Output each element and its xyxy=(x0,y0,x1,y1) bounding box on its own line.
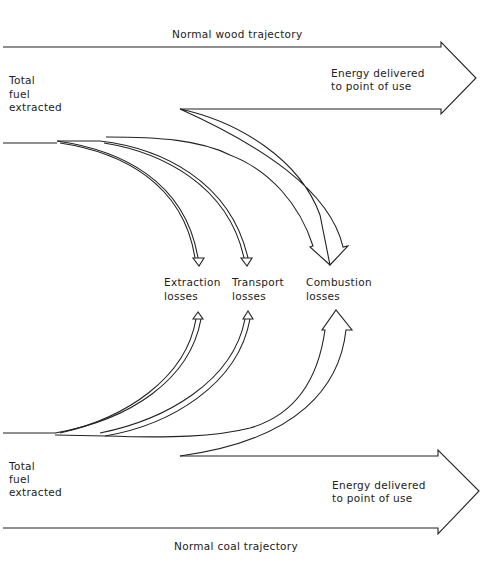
wood-output-label: Energy delivered to point of use xyxy=(331,67,428,92)
wood-combustion-loss-band xyxy=(180,109,348,265)
energy-trajectory-diagram: Normal wood trajectory Total fuel extrac… xyxy=(0,0,502,575)
combustion-losses-label: Combustion losses xyxy=(306,276,376,302)
coal-transport-arrowhead xyxy=(243,311,253,319)
wood-source-label: Total fuel extracted xyxy=(8,74,62,113)
coal-output-label: Energy delivered to point of use xyxy=(332,479,429,504)
coal-transport-bottom-line xyxy=(55,435,105,436)
coal-extraction-band-inner xyxy=(60,319,196,433)
wood-trajectory-label: Normal wood trajectory xyxy=(172,28,302,40)
coal-combustion-band xyxy=(105,310,352,456)
coal-extraction-arrowhead xyxy=(193,312,203,319)
wood-transport-arrowhead xyxy=(241,258,252,266)
wood-extraction-arrowhead xyxy=(193,258,204,266)
coal-extraction-band-outer xyxy=(55,319,201,433)
transport-losses-label: Transport losses xyxy=(231,276,288,302)
wood-combustion-inner-edge xyxy=(106,137,330,265)
wood-extraction-band-outer xyxy=(57,141,198,258)
coal-source-label: Total fuel extracted xyxy=(8,460,62,498)
coal-transport-band-outer xyxy=(105,319,250,436)
extraction-losses-label: Extraction losses xyxy=(164,276,224,302)
coal-trajectory-label: Normal coal trajectory xyxy=(174,540,298,552)
